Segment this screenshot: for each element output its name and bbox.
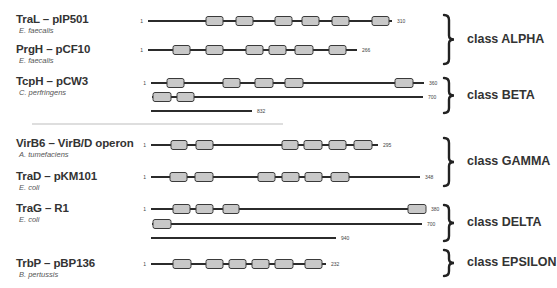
transmembrane-domain-box	[173, 260, 191, 269]
start-position-label: 1	[143, 261, 146, 267]
end-position-label: 310	[397, 18, 406, 24]
transmembrane-domain-box	[354, 141, 372, 150]
transmembrane-domain-box	[173, 46, 190, 55]
transmembrane-domain-box	[275, 17, 292, 26]
protein-track: 1232	[143, 260, 339, 269]
curly-brace-icon	[444, 138, 454, 186]
protein-name: TraD – pKM101	[16, 170, 97, 182]
end-position-label: 232	[331, 261, 340, 267]
transmembrane-domain-box	[302, 17, 319, 26]
transmembrane-domain-box	[170, 173, 187, 182]
protein-track: 700	[152, 93, 437, 102]
protein-track: 700	[152, 220, 436, 229]
transmembrane-domain-box	[255, 79, 273, 88]
curly-brace-icon	[444, 250, 454, 276]
transmembrane-domain-box	[206, 17, 223, 26]
protein-name: TcpH – pCW3	[16, 75, 88, 87]
end-position-label: 295	[383, 142, 392, 148]
transmembrane-domain-box	[282, 141, 298, 150]
protein-label: PrgH – pCF10E. faecalis	[16, 43, 90, 65]
start-position-label: 1	[143, 80, 146, 86]
protein-name: VirB6 – VirB/D operon	[16, 137, 134, 149]
protein-label: TraD – pKM101E. coli	[16, 170, 97, 192]
protein-track: 1348	[143, 173, 433, 182]
protein-track: 1295	[143, 141, 391, 150]
end-position-label: 348	[425, 174, 434, 180]
transmembrane-domain-box	[196, 205, 213, 214]
protein-track: 1266	[140, 46, 370, 55]
organism-name: E. coli	[19, 215, 69, 224]
organism-name: B. pertussis	[19, 270, 95, 279]
transmembrane-domain-box	[236, 17, 253, 26]
protein-label: TraG – R1E. coli	[16, 202, 69, 224]
end-position-label: 266	[362, 47, 371, 53]
class-label: class ALPHA	[467, 32, 544, 46]
curly-brace-icon	[444, 78, 454, 113]
protein-track: 832	[151, 108, 266, 114]
protein-track: 1360	[143, 79, 437, 88]
transmembrane-domain-box	[329, 141, 346, 150]
transmembrane-domain-box	[196, 141, 213, 150]
protein-name: TrbP – pBP136	[16, 257, 95, 269]
protein-track: 1310	[140, 17, 405, 26]
protein-track: 1380	[143, 205, 439, 214]
transmembrane-domain-box	[171, 141, 187, 150]
transmembrane-domain-box	[177, 93, 194, 102]
transmembrane-domain-box	[153, 220, 171, 229]
protein-label: VirB6 – VirB/D operonA. tumefaciens	[16, 137, 134, 159]
transmembrane-domain-box	[282, 173, 299, 182]
curly-brace-icon	[444, 205, 454, 241]
transmembrane-domain-box	[195, 173, 213, 182]
class-label: class GAMMA	[467, 154, 550, 168]
organism-name: A. tumefaciens	[19, 150, 134, 159]
transmembrane-domain-box	[223, 205, 239, 214]
transmembrane-domain-box	[173, 205, 190, 214]
transmembrane-domain-box	[206, 46, 223, 55]
transmembrane-domain-box	[258, 173, 275, 182]
transmembrane-domain-box	[329, 46, 346, 55]
transmembrane-domain-box	[304, 141, 322, 150]
transmembrane-domain-box	[332, 17, 349, 26]
transmembrane-domain-box	[246, 46, 263, 55]
class-label: class BETA	[467, 88, 535, 102]
end-position-label: 700	[427, 221, 436, 227]
transmembrane-domain-box	[305, 173, 322, 182]
end-position-label: 700	[428, 94, 437, 100]
organism-name: E. faecalis	[19, 56, 90, 65]
curly-brace-icon	[444, 15, 454, 64]
transmembrane-domain-box	[223, 79, 240, 88]
transmembrane-domain-box	[153, 93, 171, 102]
start-position-label: 1	[143, 174, 146, 180]
start-position-label: 1	[140, 47, 143, 53]
transmembrane-domain-box	[395, 79, 413, 88]
organism-name: E. coli	[19, 183, 97, 192]
end-position-label: 360	[429, 80, 438, 86]
protein-name: PrgH – pCF10	[16, 43, 90, 55]
protein-name: TraG – R1	[16, 202, 69, 214]
transmembrane-domain-box	[269, 46, 286, 55]
protein-label: TcpH – pCW3C. perfringens	[16, 75, 88, 97]
transmembrane-domain-box	[331, 173, 349, 182]
end-position-label: 380	[431, 206, 440, 212]
organism-name: C. perfringens	[19, 88, 88, 97]
class-label: class DELTA	[467, 215, 542, 229]
protein-label: TrbP – pBP136B. pertussis	[16, 257, 95, 279]
protein-name: TraL – pIP501	[16, 13, 89, 25]
transmembrane-domain-box	[229, 260, 246, 269]
start-position-label: 1	[143, 206, 146, 212]
protein-track: 940	[151, 235, 350, 241]
transmembrane-domain-box	[275, 260, 293, 269]
transmembrane-domain-box	[206, 260, 223, 269]
transmembrane-domain-box	[285, 79, 303, 88]
transmembrane-domain-box	[252, 260, 269, 269]
protein-label: TraL – pIP501E. faecalis	[16, 13, 89, 35]
end-position-label: 832	[257, 108, 266, 114]
transmembrane-domain-box	[295, 46, 313, 55]
transmembrane-domain-box	[372, 17, 389, 26]
transmembrane-domain-box	[167, 79, 184, 88]
transmembrane-domain-box	[305, 260, 322, 269]
start-position-label: 1	[143, 142, 146, 148]
class-label: class EPSILON	[467, 255, 557, 269]
end-position-label: 940	[341, 235, 350, 241]
start-position-label: 1	[140, 18, 143, 24]
